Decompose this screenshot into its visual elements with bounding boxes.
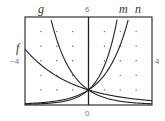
x-max-label: 4 bbox=[155, 58, 159, 66]
x-min-label: −4 bbox=[10, 58, 19, 66]
label-m: m bbox=[119, 3, 128, 15]
plot-area bbox=[0, 0, 165, 121]
curve-g bbox=[51, 20, 152, 104]
curve-n bbox=[25, 20, 128, 104]
y-min-label: 0 bbox=[85, 110, 89, 118]
label-n: n bbox=[135, 3, 141, 15]
label-f: f bbox=[16, 42, 19, 54]
y-max-label: 6 bbox=[85, 6, 89, 14]
label-g: g bbox=[38, 3, 44, 15]
curve-m bbox=[25, 20, 117, 105]
